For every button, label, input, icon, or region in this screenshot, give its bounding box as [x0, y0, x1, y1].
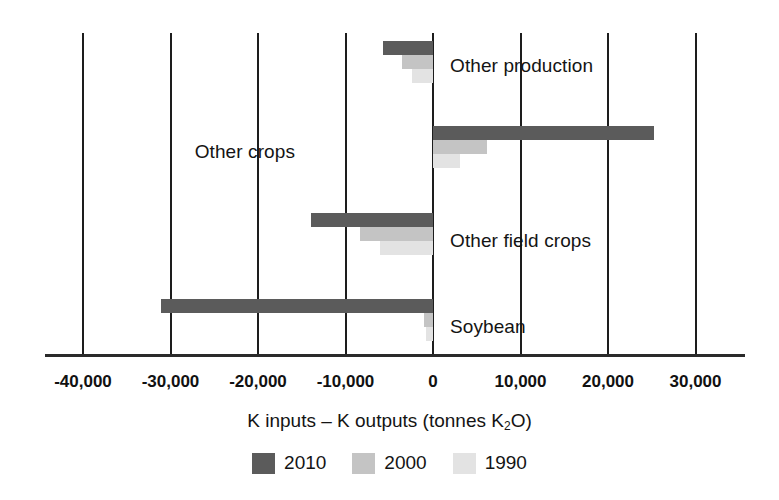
- bar-2000: [424, 313, 433, 327]
- tick-label-30000: 30,000: [670, 372, 722, 392]
- tick-label--30000: -30,000: [142, 372, 200, 392]
- bar-2000: [402, 55, 433, 69]
- legend-label-1990: 1990: [485, 452, 527, 474]
- legend-item-1990[interactable]: 1990: [453, 452, 527, 474]
- tick-label--20000: -20,000: [229, 372, 287, 392]
- bar-2000: [433, 140, 487, 154]
- bar-2010: [311, 213, 433, 227]
- x-axis-line: [45, 354, 745, 357]
- x-axis-title-subscript: 2: [504, 419, 511, 433]
- x-axis-title-suffix: O): [511, 410, 532, 431]
- bar-2010: [383, 41, 433, 55]
- category-label-other-production: Other production: [450, 55, 593, 77]
- chart-container: Other productionOther cropsOther field c…: [0, 0, 779, 500]
- gridline-10000: [520, 33, 522, 355]
- bar-1990: [433, 154, 460, 168]
- legend-swatch-2010: [252, 453, 275, 474]
- gridline--40000: [82, 33, 84, 355]
- bar-2010: [161, 299, 433, 313]
- tick-label-20000: 20,000: [582, 372, 634, 392]
- bar-1990: [380, 241, 433, 255]
- legend-swatch-2000: [352, 453, 375, 474]
- tick-label-10000: 10,000: [495, 372, 547, 392]
- legend-item-2000[interactable]: 2000: [352, 452, 426, 474]
- tick-label-0: 0: [428, 372, 437, 392]
- chart-legend: 201020001990: [0, 452, 779, 474]
- tick-label--10000: -10,000: [317, 372, 375, 392]
- plot-area: Other productionOther cropsOther field c…: [45, 33, 740, 355]
- x-axis-title-prefix: K inputs – K outputs (tonnes K: [247, 410, 504, 431]
- category-label-other-crops: Other crops: [195, 141, 295, 163]
- legend-label-2010: 2010: [284, 452, 326, 474]
- legend-label-2000: 2000: [384, 452, 426, 474]
- gridline-30000: [695, 33, 697, 355]
- bar-1990: [412, 69, 433, 83]
- tick-label--40000: -40,000: [54, 372, 112, 392]
- gridline-20000: [607, 33, 609, 355]
- x-axis-title: K inputs – K outputs (tonnes K2O): [0, 410, 779, 433]
- legend-item-2010[interactable]: 2010: [252, 452, 326, 474]
- bar-1990: [426, 327, 433, 341]
- bar-2000: [360, 227, 434, 241]
- category-label-soybean: Soybean: [450, 316, 526, 338]
- category-label-other-field-crops: Other field crops: [450, 230, 591, 252]
- legend-swatch-1990: [453, 453, 476, 474]
- bar-2010: [433, 126, 654, 140]
